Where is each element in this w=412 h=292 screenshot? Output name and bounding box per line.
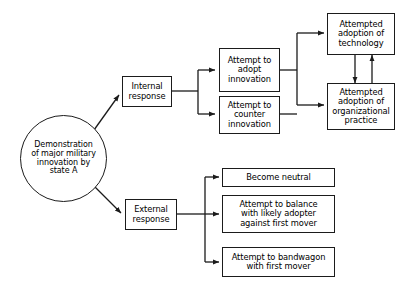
node-adoption-organizational-practice: Attempted adoption of organizational pra…	[327, 83, 395, 130]
edge-source-to-internal-response	[94, 95, 119, 130]
node-adoption-technology: Attempted adoption of technology	[327, 13, 395, 55]
node-counter-innovation: Attempt to counter innovation	[219, 96, 280, 134]
edge-source-to-external-response	[94, 186, 121, 213]
node-bandwagon-with-first-mover: Attempt to bandwagon with first mover	[222, 247, 335, 277]
node-adopt-innovation: Attempt to adopt innovation	[219, 48, 280, 92]
node-source: Demonstration of major military innovati…	[20, 115, 107, 202]
node-become-neutral: Become neutral	[222, 168, 335, 187]
flowchart-diagram: Demonstration of major military innovati…	[0, 0, 412, 292]
node-external-response: External response	[125, 199, 177, 230]
node-internal-response: Internal response	[122, 76, 172, 107]
node-balance-against-first-mover: Attempt to balance with likely adopter a…	[222, 195, 335, 233]
